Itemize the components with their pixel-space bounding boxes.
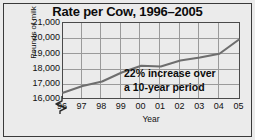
x-tick-label: 00 xyxy=(131,101,149,111)
chart-figure: Rate per Cow, 1996–2005 Pounds of milk 2… xyxy=(0,0,255,140)
y-tick-label: 17,000 xyxy=(18,78,60,88)
x-tick-label: 03 xyxy=(190,101,208,111)
x-tick-label: 01 xyxy=(151,101,169,111)
y-axis-tick-labels: 21,000 20,000 19,000 18,000 17,000 16,00… xyxy=(16,0,60,140)
x-axis-title: Year xyxy=(62,114,240,124)
x-tick-label: 02 xyxy=(171,101,189,111)
x-tick-label: 99 xyxy=(112,101,130,111)
x-axis-tick-labels: 96 97 98 99 00 01 02 03 04 05 xyxy=(62,101,240,115)
chart-annotation: 22% increase over a 10-year period xyxy=(124,66,239,94)
y-tick-label: 21,000 xyxy=(18,17,60,27)
x-tick-label: 05 xyxy=(229,101,247,111)
annotation-line: 22% increase over xyxy=(124,66,239,80)
y-tick-label: 18,000 xyxy=(18,63,60,73)
x-tick-label: 96 xyxy=(53,101,71,111)
x-tick-label: 98 xyxy=(92,101,110,111)
x-tick-label: 04 xyxy=(210,101,228,111)
y-tick-label: 20,000 xyxy=(18,32,60,42)
annotation-line: a 10-year period xyxy=(124,80,239,94)
x-tick-label: 97 xyxy=(73,101,91,111)
y-tick-label: 19,000 xyxy=(18,48,60,58)
